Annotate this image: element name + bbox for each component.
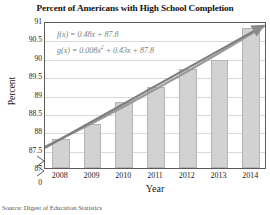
x-axis-tick-label: 2010 bbox=[108, 171, 138, 180]
source-note: Source: Digest of Education Statistics bbox=[2, 204, 102, 211]
x-axis-tick-label: 2009 bbox=[77, 171, 107, 180]
y-axis-tick-label: 91 bbox=[16, 18, 42, 26]
chart-figure: Percent of Americans with High School Co… bbox=[0, 0, 270, 215]
y-axis-tick-label: 0 bbox=[16, 179, 42, 187]
x-axis-tick-label: 2011 bbox=[140, 171, 170, 180]
y-axis-tick-label: 88.5 bbox=[16, 110, 42, 118]
quadratic-equation-head: g(x) = 0.008x bbox=[57, 46, 101, 55]
y-axis-tick-label: 87.5 bbox=[16, 147, 42, 155]
x-axis-tick-label: 2008 bbox=[45, 171, 75, 180]
plot-area: f(x) = 0.48x + 87.8 g(x) = 0.008x2 + 0.4… bbox=[44, 22, 266, 169]
quadratic-equation-tail: + 0.43x + 87.8 bbox=[104, 46, 154, 55]
y-axis-tick-labels: 9190.59089.58988.58887.5870 bbox=[16, 18, 42, 178]
quadratic-equation-label: g(x) = 0.008x2 + 0.43x + 87.8 bbox=[57, 41, 154, 57]
x-axis-tick-label: 2012 bbox=[172, 171, 202, 180]
x-axis-tick-label: 2014 bbox=[235, 171, 265, 180]
y-axis-tick-label: 88 bbox=[16, 128, 42, 136]
y-axis-tick-label: 90 bbox=[16, 55, 42, 63]
y-axis-tick-label: 89 bbox=[16, 92, 42, 100]
page-title: Percent of Americans with High School Co… bbox=[0, 3, 270, 14]
x-axis-tick-labels: 2008200920102011201220132014 bbox=[44, 171, 266, 183]
x-axis-label: Year bbox=[44, 183, 266, 194]
x-axis-tick-label: 2013 bbox=[203, 171, 233, 180]
equation-annotations: f(x) = 0.48x + 87.8 g(x) = 0.008x2 + 0.4… bbox=[57, 28, 154, 57]
linear-equation-label: f(x) = 0.48x + 87.8 bbox=[57, 28, 154, 41]
y-axis-tick-label: 89.5 bbox=[16, 73, 42, 81]
y-axis-tick-label: 90.5 bbox=[16, 36, 42, 44]
